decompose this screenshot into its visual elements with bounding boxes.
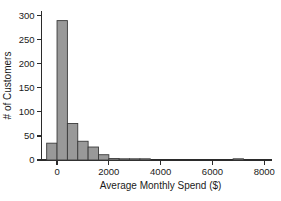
y-tick-label: 50 (24, 130, 35, 141)
histogram-bar (140, 159, 150, 160)
x-tick-label: 8000 (254, 166, 275, 177)
histogram-bar (233, 159, 243, 160)
y-tick-label: 0 (29, 154, 34, 165)
histogram-bar (57, 21, 67, 160)
y-tick-label: 150 (19, 82, 35, 93)
x-tick-label: 4000 (150, 166, 171, 177)
chart-page: 050100150200250300# of Customers02000400… (0, 0, 281, 201)
y-tick-label: 250 (19, 34, 35, 45)
y-tick-label: 100 (19, 106, 35, 117)
y-tick-label: 200 (19, 58, 35, 69)
histogram-bar (130, 159, 140, 160)
y-axis-title: # of Customers (2, 52, 13, 120)
histogram-chart: 050100150200250300# of Customers02000400… (0, 0, 281, 201)
histogram-bar (67, 123, 77, 160)
histogram-bar (78, 141, 88, 160)
x-tick-label: 0 (54, 166, 59, 177)
histogram-bar (47, 143, 57, 160)
y-tick-label: 300 (19, 10, 35, 21)
histogram-bar (98, 155, 108, 160)
histogram-bar (119, 159, 129, 160)
histogram-bar (109, 159, 119, 160)
x-tick-label: 2000 (98, 166, 119, 177)
x-axis-title: Average Monthly Spend ($) (100, 180, 222, 191)
histogram-bar (88, 147, 98, 160)
x-tick-label: 6000 (202, 166, 223, 177)
